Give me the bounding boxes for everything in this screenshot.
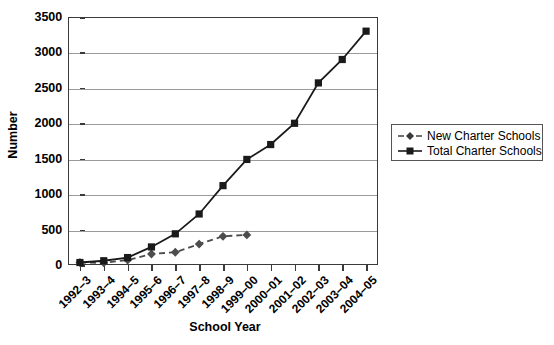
x-axis-tick-mark	[175, 265, 177, 271]
y-axis-tick-mark	[80, 123, 85, 125]
legend-entry-total: Total Charter Schools	[397, 143, 537, 158]
x-axis-tick-mark	[366, 265, 368, 271]
y-axis-tick-label: 0	[22, 259, 62, 272]
x-axis-tick-mark	[318, 265, 320, 271]
x-axis-tick-mark	[295, 265, 297, 271]
gridline	[69, 124, 377, 125]
legend-label-new: New Charter Schools	[427, 129, 540, 143]
legend-label-total: Total Charter Schools	[427, 144, 542, 158]
legend: New Charter Schools Total Charter School…	[391, 124, 543, 161]
x-axis-title: School Year	[135, 320, 315, 334]
x-axis-tick-mark	[151, 265, 153, 271]
y-axis-ticks: 0500100015002000250030003500	[18, 0, 62, 345]
gridline	[69, 89, 377, 90]
y-axis-tick-label: 1000	[22, 188, 62, 201]
gridline	[69, 160, 377, 161]
y-axis-tick-label: 3500	[22, 11, 62, 24]
line-chart: 0500100015002000250030003500 Number 1992…	[0, 0, 554, 345]
y-axis-tick-label: 3000	[22, 46, 62, 59]
gridline	[69, 231, 377, 232]
x-axis-tick-mark	[271, 265, 273, 271]
y-axis-title: Number	[6, 100, 20, 170]
gridline	[69, 195, 377, 196]
y-axis-tick-mark	[80, 230, 85, 232]
legend-entry-new: New Charter Schools	[397, 128, 537, 143]
diamond-marker-icon	[397, 129, 423, 143]
x-axis-tick-mark	[199, 265, 201, 271]
x-axis-tick-mark	[104, 265, 106, 271]
y-axis-tick-mark	[80, 88, 85, 90]
square-marker-icon	[397, 144, 423, 158]
y-axis-tick-label: 1500	[22, 153, 62, 166]
x-axis-tick-mark	[80, 265, 82, 271]
gridline	[69, 53, 377, 54]
y-axis-tick-mark	[80, 52, 85, 54]
y-axis-tick-mark	[80, 17, 85, 19]
y-axis-tick-mark	[80, 194, 85, 196]
y-axis-tick-label: 2500	[22, 82, 62, 95]
x-axis-tick-mark	[223, 265, 225, 271]
x-axis-tick-mark	[128, 265, 130, 271]
x-axis-tick-mark	[247, 265, 249, 271]
x-axis-tick-mark	[342, 265, 344, 271]
y-axis-tick-mark	[80, 159, 85, 161]
y-axis-tick-label: 500	[22, 224, 62, 237]
plot-area	[68, 17, 378, 265]
y-axis-tick-label: 2000	[22, 117, 62, 130]
